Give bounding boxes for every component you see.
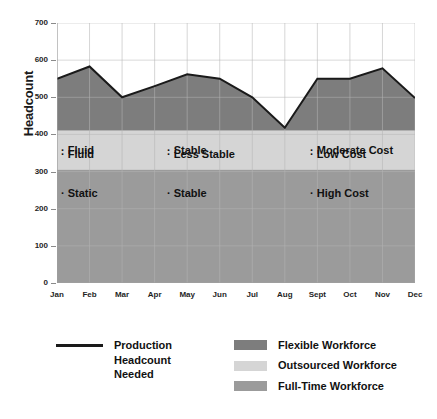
y-tick-label: 700 [2, 19, 48, 27]
y-tick-mark [51, 97, 56, 98]
legend-line-label: Production Headcount Needed [114, 338, 172, 382]
plot-annotation: · Stable [167, 145, 207, 156]
legend-band-swatch [234, 340, 267, 350]
legend-line-swatch [56, 344, 103, 347]
y-tick-mark [51, 283, 56, 284]
legend-band-label: Outsourced Workforce [278, 360, 397, 371]
legend-band-swatch [234, 361, 267, 371]
y-tick-mark [51, 172, 56, 173]
y-tick-label: 300 [2, 168, 48, 176]
plot-annotation: · Moderate Cost [310, 145, 393, 156]
legend-band-label: Full-Time Workforce [278, 381, 384, 392]
y-tick-label: 600 [2, 56, 48, 64]
x-tick-label: Dec [395, 290, 435, 299]
plot-annotation: · Static [61, 188, 98, 199]
legend-line-entry: Production Headcount Needed [56, 338, 172, 382]
plot-annotation: · Stable [167, 188, 207, 199]
y-tick-label: 400 [2, 130, 48, 138]
y-tick-label: 0 [2, 279, 48, 287]
legend-band-label: Flexible Workforce [278, 340, 376, 351]
y-tick-label: 100 [2, 242, 48, 250]
y-tick-mark [51, 209, 56, 210]
legend-band-swatch [234, 381, 267, 391]
y-tick-label: 200 [2, 205, 48, 213]
plot-area: · Fluid· Less Stable· Low Cost· Fluid· S… [57, 23, 415, 283]
legend-band-row: Full-Time Workforce [234, 377, 397, 395]
plot-annotation: · High Cost [310, 188, 369, 199]
y-tick-mark [51, 246, 56, 247]
legend-band-entries: Flexible WorkforceOutsourced WorkforceFu… [234, 336, 397, 398]
plot-annotation: · Fluid [61, 145, 94, 156]
y-tick-mark [51, 23, 56, 24]
legend-band-row: Flexible Workforce [234, 336, 397, 354]
y-tick-mark [51, 134, 56, 135]
legend-band-row: Outsourced Workforce [234, 357, 397, 375]
y-tick-mark [51, 60, 56, 61]
y-tick-label: 500 [2, 93, 48, 101]
workforce-headcount-chart: Headcount 0100200300400500600700 JanFebM… [0, 0, 437, 419]
